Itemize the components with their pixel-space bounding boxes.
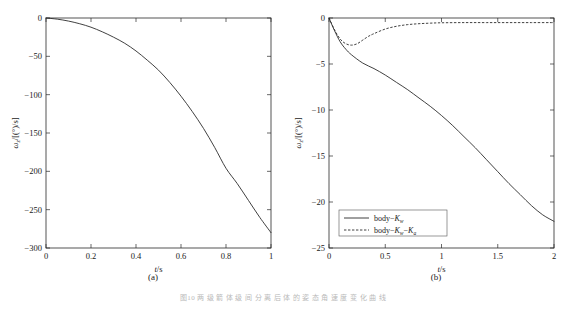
x-tick-label: 1 xyxy=(439,251,443,261)
plot-frame xyxy=(46,18,271,248)
y-tick-label: −100 xyxy=(24,90,42,100)
chart-panel-b: 00.511.520−5−10−15−20−25t/sωz/[(°)/s]bod… xyxy=(283,0,566,285)
y-tick-label: −20 xyxy=(312,197,325,207)
x-tick-label: 0.5 xyxy=(380,251,391,261)
y-tick-label: −50 xyxy=(29,51,42,61)
y-tick-label: −250 xyxy=(24,205,42,215)
legend-label: body−Kw xyxy=(374,214,404,224)
x-tick-label: 1.5 xyxy=(492,251,503,261)
plot-b-svg: 00.511.520−5−10−15−20−25t/sωz/[(°)/s]bod… xyxy=(283,0,566,285)
data-series-solid xyxy=(46,18,271,233)
x-tick-label: 1 xyxy=(269,251,273,261)
panel-b-sublabel: (b) xyxy=(416,272,456,282)
y-axis-title: ωz/[(°)/s] xyxy=(10,117,21,148)
y-tick-label: −15 xyxy=(312,151,325,161)
x-tick-label: 0.6 xyxy=(176,251,187,261)
y-tick-label: −150 xyxy=(24,128,42,138)
y-tick-label: 0 xyxy=(38,13,42,23)
panel-a-sublabel: (a) xyxy=(133,272,173,282)
y-tick-label: 0 xyxy=(321,13,325,23)
y-tick-label: −200 xyxy=(24,166,42,176)
y-axis-title: ωz/[(°)/s] xyxy=(293,117,304,148)
plot-a-svg: 00.20.40.60.810−50−100−150−200−250−300t/… xyxy=(0,0,283,285)
figure-container: 00.20.40.60.810−50−100−150−200−250−300t/… xyxy=(0,0,566,310)
y-tick-label: −300 xyxy=(24,243,42,253)
x-tick-label: 0.4 xyxy=(131,251,142,261)
x-tick-label: 0.2 xyxy=(86,251,97,261)
x-tick-label: 0.8 xyxy=(221,251,232,261)
y-tick-label: −5 xyxy=(316,59,325,69)
data-series-solid xyxy=(329,18,554,221)
x-tick-label: 2 xyxy=(552,251,556,261)
figure-caption: 图10 两 级 箭 体 级 间 分 离 后 体 的 姿 态 角 速 度 变 化 … xyxy=(0,292,566,302)
data-series-dashed xyxy=(329,18,554,45)
x-tick-label: 0 xyxy=(327,251,331,261)
y-tick-label: −25 xyxy=(312,243,325,253)
chart-panel-a: 00.20.40.60.810−50−100−150−200−250−300t/… xyxy=(0,0,283,285)
x-tick-label: 0 xyxy=(44,251,48,261)
y-tick-label: −10 xyxy=(312,105,325,115)
legend-label: body−Kw−Ka xyxy=(374,226,416,236)
legend: body−Kwbody−Kw−Ka xyxy=(339,210,447,236)
